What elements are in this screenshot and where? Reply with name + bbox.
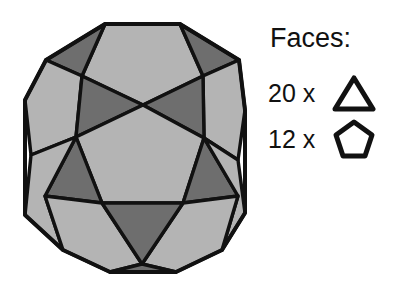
legend-row-pentagon: 12 x (268, 116, 393, 162)
faces-legend: Faces: 20 x 12 x (262, 24, 393, 204)
pentagon-count-label: 12 x (268, 126, 330, 152)
pentagon-icon (330, 117, 378, 161)
legend-row-triangle: 20 x (268, 70, 393, 116)
polyhedron-faces (25, 24, 245, 272)
legend-title: Faces: (270, 24, 393, 52)
triangle-count-label: 20 x (268, 80, 330, 106)
triangle-icon (330, 71, 378, 115)
